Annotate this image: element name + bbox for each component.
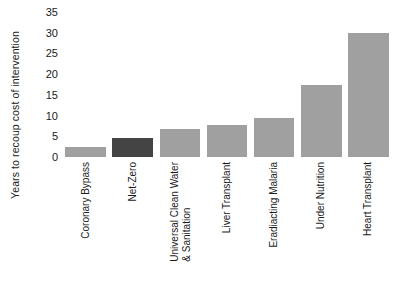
y-axis-tick-label: 20 bbox=[46, 68, 58, 80]
bar-slot bbox=[298, 12, 345, 157]
x-axis-tick-label-line: Coronary Bypass bbox=[80, 162, 91, 239]
y-axis-tick-label: 25 bbox=[46, 47, 58, 59]
x-axis-tick-label: Under Nutrition bbox=[316, 162, 328, 229]
y-axis-tick-label: 10 bbox=[46, 110, 58, 122]
y-axis-tick-label: 30 bbox=[46, 27, 58, 39]
x-axis-label-slot: Heart Transplant bbox=[345, 160, 392, 299]
x-axis-tick-label-line: & Sanitation bbox=[180, 162, 192, 262]
x-axis-tick-label-line: Eradiacting Malaria bbox=[268, 162, 279, 248]
y-axis-tick-label: 35 bbox=[46, 6, 58, 18]
bar[interactable] bbox=[301, 85, 342, 158]
bar[interactable] bbox=[112, 138, 153, 157]
x-axis-tick-label: Heart Transplant bbox=[363, 162, 375, 236]
x-axis-tick-label-line: Under Nutrition bbox=[316, 162, 327, 229]
y-axis-title-text: Years to recoup cost of intervention bbox=[9, 31, 21, 199]
y-axis-tick-label: 5 bbox=[52, 130, 58, 142]
x-axis-label-slot: Universal Clean Water& Sanitation bbox=[156, 160, 203, 299]
x-axis-tick-label-line: Universal Clean Water bbox=[168, 162, 179, 262]
x-axis-tick-labels: Coronary BypassNet-ZeroUniversal Clean W… bbox=[62, 160, 392, 299]
x-axis-tick-label: Universal Clean Water& Sanitation bbox=[168, 162, 191, 262]
x-axis-tick-label: Net-Zero bbox=[127, 162, 139, 201]
x-axis-label-slot: Eradiacting Malaria bbox=[251, 160, 298, 299]
bar[interactable] bbox=[160, 129, 201, 157]
bar-slot bbox=[156, 12, 203, 157]
x-axis-tick-label-line: Net-Zero bbox=[127, 162, 138, 201]
y-axis-title: Years to recoup cost of intervention bbox=[0, 0, 30, 230]
bar-slot bbox=[109, 12, 156, 157]
y-axis-tick-labels: 05101520253035 bbox=[30, 0, 62, 299]
y-axis-tick-label: 0 bbox=[52, 151, 58, 163]
bar-slot bbox=[62, 12, 109, 157]
plot-area bbox=[62, 12, 392, 157]
x-axis-label-slot: Net-Zero bbox=[109, 160, 156, 299]
x-axis-label-slot: Liver Transplant bbox=[203, 160, 250, 299]
bar[interactable] bbox=[254, 118, 295, 157]
x-axis-label-slot: Under Nutrition bbox=[298, 160, 345, 299]
x-axis-label-slot: Coronary Bypass bbox=[62, 160, 109, 299]
x-axis-tick-label-line: Heart Transplant bbox=[363, 162, 374, 236]
bar[interactable] bbox=[207, 125, 248, 157]
bar[interactable] bbox=[348, 33, 389, 157]
bar-slot bbox=[251, 12, 298, 157]
bar-slot bbox=[345, 12, 392, 157]
bar-slot bbox=[203, 12, 250, 157]
x-axis-tick-label: Coronary Bypass bbox=[80, 162, 92, 239]
bar[interactable] bbox=[65, 147, 106, 157]
y-axis-tick-label: 15 bbox=[46, 89, 58, 101]
x-axis-tick-label-line: Liver Transplant bbox=[221, 162, 232, 233]
bar-chart: Years to recoup cost of intervention 051… bbox=[0, 0, 400, 299]
x-axis-tick-label: Eradiacting Malaria bbox=[268, 162, 280, 248]
x-axis-tick-label: Liver Transplant bbox=[221, 162, 233, 233]
bars-layer bbox=[62, 12, 392, 157]
